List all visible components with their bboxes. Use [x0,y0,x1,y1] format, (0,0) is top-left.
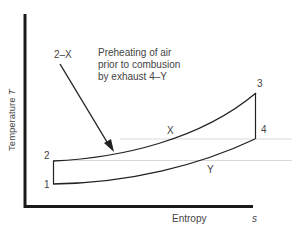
annotation-line-2: prior to combusion [98,59,180,70]
y-axis-label: Temperature T [6,88,17,151]
point-label-2: 2 [44,150,50,161]
arrow-label: 2–X [54,49,72,60]
point-label-y: Y [207,164,214,175]
process-4-1 [53,139,255,184]
point-label-4: 4 [261,124,267,135]
ts-diagram: 1 2 3 4 X Y 2–X Preheating of air prior … [0,0,304,235]
point-label-1: 1 [44,179,50,190]
annotation-line-1: Preheating of air [98,47,172,58]
annotation-line-3: by exhaust 4–Y [98,71,167,82]
arrow-head-icon [104,139,114,152]
x-axis-label: Entropy [172,213,206,224]
x-axis-symbol: s [252,213,257,224]
point-label-3: 3 [257,78,263,89]
y-axis-symbol: T [6,88,17,95]
point-label-x: X [167,125,174,136]
